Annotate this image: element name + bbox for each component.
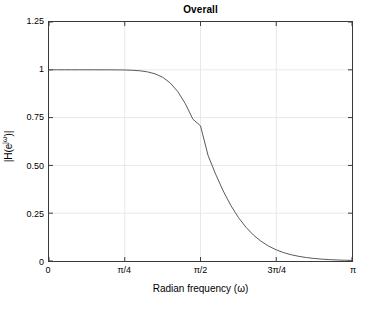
plot-area (48, 21, 353, 262)
y-tick-label: 1 (0, 64, 44, 74)
page-title: Overall (48, 4, 353, 15)
y-axis-label-exponent: jω (1, 137, 8, 144)
x-tick-label: π/2 (194, 265, 208, 275)
magnitude-response-curve (49, 22, 352, 261)
y-tick-label: 0.25 (0, 209, 44, 219)
y-axis-label: |H(ejω)| (3, 87, 14, 207)
figure-canvas: Overall 00.250.500.7511.25 0π/4π/23π/4π … (0, 0, 372, 309)
x-tick-label: 3π/4 (267, 265, 286, 275)
x-tick-label: 0 (45, 265, 50, 275)
x-tick-label: π/4 (117, 265, 131, 275)
x-tick-label: π (350, 265, 356, 275)
x-axis-tick-labels: 0π/4π/23π/4π (0, 265, 372, 281)
y-axis-label-base: |H(e (3, 144, 14, 163)
y-tick-label: 1.25 (0, 16, 44, 26)
y-axis-label-tail: )| (3, 131, 14, 137)
x-axis-label: Radian frequency (ω) (48, 283, 353, 294)
